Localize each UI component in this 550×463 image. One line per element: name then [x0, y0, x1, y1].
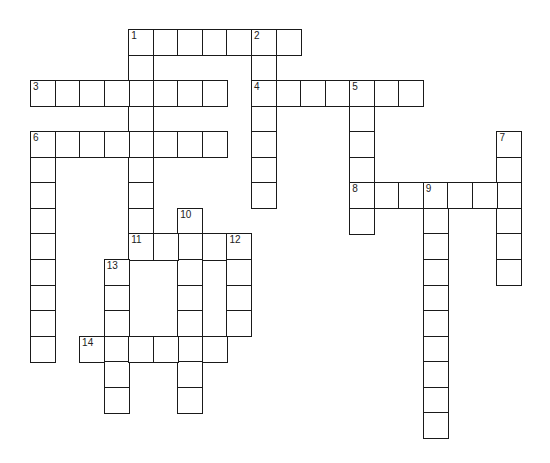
crossword-cell[interactable] [226, 29, 252, 56]
crossword-cell[interactable] [300, 80, 326, 107]
crossword-cell[interactable] [496, 208, 522, 235]
crossword-cell[interactable] [423, 336, 449, 363]
crossword-cell[interactable] [202, 29, 228, 56]
crossword-cell[interactable]: 7 [496, 131, 522, 158]
crossword-cell[interactable] [496, 157, 522, 184]
crossword-cell[interactable] [55, 131, 81, 158]
crossword-cell[interactable] [79, 131, 105, 158]
crossword-cell[interactable] [423, 387, 449, 414]
crossword-cell[interactable] [30, 259, 56, 286]
clue-number: 5 [352, 82, 358, 92]
crossword-cell[interactable] [226, 259, 252, 286]
clue-number: 10 [180, 210, 191, 220]
crossword-cell[interactable] [251, 106, 277, 133]
crossword-cell[interactable] [276, 29, 302, 56]
crossword-cell[interactable] [349, 106, 375, 133]
crossword-cell[interactable] [251, 131, 277, 158]
crossword-cell[interactable] [423, 412, 449, 439]
crossword-cell[interactable] [128, 106, 154, 133]
crossword-cell[interactable] [128, 157, 154, 184]
crossword-cell[interactable] [30, 285, 56, 312]
crossword-cell[interactable] [202, 233, 228, 260]
crossword-cell[interactable]: 2 [251, 29, 277, 56]
crossword-cell[interactable] [153, 29, 179, 56]
crossword-cell[interactable]: 5 [349, 80, 375, 107]
crossword-cell[interactable] [177, 336, 203, 363]
crossword-cell[interactable] [423, 361, 449, 388]
crossword-cell[interactable] [30, 310, 56, 337]
crossword-cell[interactable] [104, 310, 130, 337]
crossword-cell[interactable] [226, 285, 252, 312]
crossword-cell[interactable] [30, 208, 56, 235]
crossword-cell[interactable] [177, 80, 203, 107]
crossword-cell[interactable] [177, 259, 203, 286]
crossword-cell[interactable]: 4 [251, 80, 277, 107]
crossword-cell[interactable] [251, 182, 277, 209]
crossword-cell[interactable] [128, 182, 154, 209]
crossword-cell[interactable] [447, 182, 473, 209]
crossword-cell[interactable]: 12 [226, 233, 252, 260]
crossword-cell[interactable] [177, 233, 203, 260]
crossword-cell[interactable]: 14 [79, 336, 105, 363]
crossword-cell[interactable] [398, 80, 424, 107]
crossword-cell[interactable] [202, 80, 228, 107]
crossword-cell[interactable] [177, 285, 203, 312]
crossword-cell[interactable] [30, 157, 56, 184]
crossword-cell[interactable] [177, 310, 203, 337]
crossword-cell[interactable]: 9 [423, 182, 449, 209]
crossword-cell[interactable] [30, 182, 56, 209]
crossword-cell[interactable] [226, 310, 252, 337]
crossword-cell[interactable] [349, 157, 375, 184]
crossword-cell[interactable] [104, 285, 130, 312]
crossword-cell[interactable] [104, 336, 130, 363]
crossword-cell[interactable] [153, 336, 179, 363]
crossword-cell[interactable]: 13 [104, 259, 130, 286]
crossword-cell[interactable] [251, 157, 277, 184]
crossword-cell[interactable]: 6 [30, 131, 56, 158]
crossword-cell[interactable] [202, 336, 228, 363]
crossword-cell[interactable] [398, 182, 424, 209]
crossword-cell[interactable] [104, 80, 130, 107]
crossword-cell[interactable] [104, 387, 130, 414]
crossword-cell[interactable] [423, 285, 449, 312]
crossword-cell[interactable] [423, 233, 449, 260]
crossword-cell[interactable] [55, 80, 81, 107]
crossword-cell[interactable] [30, 336, 56, 363]
crossword-cell[interactable] [472, 182, 498, 209]
crossword-cell[interactable] [276, 80, 302, 107]
crossword-cell[interactable] [423, 208, 449, 235]
crossword-cell[interactable] [325, 80, 351, 107]
crossword-cell[interactable] [374, 182, 400, 209]
crossword-cell[interactable] [128, 80, 154, 107]
crossword-cell[interactable] [153, 233, 179, 260]
crossword-cell[interactable] [104, 361, 130, 388]
crossword-cell[interactable] [177, 361, 203, 388]
crossword-cell[interactable]: 1 [128, 29, 154, 56]
crossword-cell[interactable] [349, 131, 375, 158]
crossword-cell[interactable]: 8 [349, 182, 375, 209]
crossword-cell[interactable] [128, 208, 154, 235]
crossword-cell[interactable] [153, 131, 179, 158]
crossword-cell[interactable] [104, 131, 130, 158]
crossword-cell[interactable] [423, 259, 449, 286]
crossword-cell[interactable] [30, 233, 56, 260]
crossword-cell[interactable] [128, 55, 154, 82]
crossword-cell[interactable] [349, 208, 375, 235]
crossword-cell[interactable] [251, 55, 277, 82]
crossword-cell[interactable]: 3 [30, 80, 56, 107]
crossword-cell[interactable] [128, 131, 154, 158]
crossword-cell[interactable] [79, 80, 105, 107]
crossword-cell[interactable] [202, 131, 228, 158]
crossword-cell[interactable] [177, 387, 203, 414]
crossword-cell[interactable] [177, 131, 203, 158]
crossword-cell[interactable] [153, 80, 179, 107]
crossword-cell[interactable] [177, 29, 203, 56]
crossword-cell[interactable]: 10 [177, 208, 203, 235]
crossword-cell[interactable] [374, 80, 400, 107]
crossword-cell[interactable] [496, 233, 522, 260]
crossword-cell[interactable] [496, 182, 522, 209]
crossword-cell[interactable] [423, 310, 449, 337]
crossword-cell[interactable]: 11 [128, 233, 154, 260]
crossword-cell[interactable] [496, 259, 522, 286]
crossword-cell[interactable] [128, 336, 154, 363]
